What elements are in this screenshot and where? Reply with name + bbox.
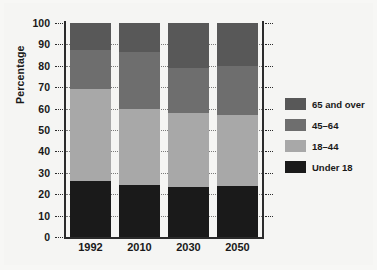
legend-color-swatch <box>285 140 306 152</box>
y-axis-tick-mark <box>55 109 63 110</box>
legend-item[interactable]: Under 18 <box>285 158 373 176</box>
legend-label: 45–64 <box>312 120 338 131</box>
bar-segment <box>70 50 111 90</box>
y-axis-title: Percentage <box>14 45 26 104</box>
y-axis-tick-mark <box>55 194 63 195</box>
y-axis-line <box>64 21 66 239</box>
y-axis-tick-mark <box>55 237 63 238</box>
plot-right-border <box>262 21 264 239</box>
bar-segment <box>217 23 258 66</box>
legend-label: 18–44 <box>312 141 338 152</box>
y-axis-tick-mark-right <box>265 130 273 131</box>
y-axis-tick-mark <box>55 173 63 174</box>
legend-item[interactable]: 45–64 <box>285 116 373 134</box>
bar-segment <box>119 23 160 52</box>
bar-segment <box>70 181 111 237</box>
bar-segment <box>70 23 111 50</box>
y-axis-tick-label: 80 <box>10 61 50 72</box>
y-axis-tick-mark <box>55 216 63 217</box>
bar-segment <box>168 68 209 113</box>
y-axis-tick-label: 30 <box>10 168 50 179</box>
bar-segment <box>168 23 209 68</box>
bar-segment <box>119 185 160 237</box>
y-axis-tick-label: 60 <box>10 104 50 115</box>
legend: 65 and over45–6418–44Under 18 <box>285 95 373 179</box>
bar-segment <box>168 187 209 237</box>
y-axis-tick-mark-right <box>265 109 273 110</box>
legend-item[interactable]: 65 and over <box>285 95 373 113</box>
bar-segment <box>119 109 160 185</box>
y-axis-tick-mark <box>55 44 63 45</box>
legend-item[interactable]: 18–44 <box>285 137 373 155</box>
legend-label: Under 18 <box>312 162 353 173</box>
bar-segment <box>217 115 258 186</box>
stacked-bar <box>217 23 258 237</box>
y-axis-tick-mark-right <box>265 87 273 88</box>
y-axis-tick-label: 50 <box>10 125 50 136</box>
legend-color-swatch <box>285 161 306 173</box>
y-axis-tick-label: 20 <box>10 189 50 200</box>
y-axis-tick-mark-right <box>265 173 273 174</box>
y-axis-tick-mark <box>55 66 63 67</box>
stacked-bar <box>70 23 111 237</box>
y-axis-tick-mark-right <box>265 23 273 24</box>
bar-segment <box>70 89 111 181</box>
bar-segment <box>119 52 160 109</box>
bar-segment <box>168 113 209 187</box>
x-axis-line <box>64 237 264 239</box>
y-axis-tick-label: 40 <box>10 146 50 157</box>
stacked-bar <box>119 23 160 237</box>
chart-figure: Percentage 1009080706050403020100 199220… <box>0 0 377 270</box>
y-axis-tick-mark-right <box>265 66 273 67</box>
legend-label: 65 and over <box>312 99 365 110</box>
y-axis-tick-label: 100 <box>10 18 50 29</box>
y-axis-tick-mark <box>55 23 63 24</box>
bar-segment <box>217 186 258 237</box>
y-axis-tick-mark-right <box>265 216 273 217</box>
y-axis-tick-mark <box>55 151 63 152</box>
y-axis-tick-mark-right <box>265 151 273 152</box>
stacked-bar <box>168 23 209 237</box>
legend-color-swatch <box>285 98 306 110</box>
y-axis-tick-mark <box>55 130 63 131</box>
x-axis-tick-label: 2050 <box>208 241 268 253</box>
y-axis-tick-mark <box>55 87 63 88</box>
legend-color-swatch <box>285 119 306 131</box>
plot-area <box>66 23 262 237</box>
y-axis-tick-label: 90 <box>10 39 50 50</box>
bar-segment <box>217 66 258 115</box>
y-axis-tick-mark-right <box>265 44 273 45</box>
y-axis-tick-label: 0 <box>10 232 50 243</box>
y-axis-tick-label: 10 <box>10 211 50 222</box>
y-axis-tick-mark-right <box>265 194 273 195</box>
y-axis-tick-label: 70 <box>10 82 50 93</box>
